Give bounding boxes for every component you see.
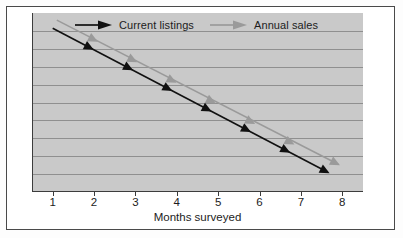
arrow-right-icon (319, 165, 332, 178)
x-tick-label: 5 (206, 196, 230, 208)
arrow-right-icon (83, 41, 96, 54)
plot-area-wrapper: Current listings Annual sales (32, 13, 363, 192)
legend-label-annual-sales: Annual sales (254, 19, 318, 31)
x-tick-label: 3 (123, 196, 147, 208)
arrow-right-icon (201, 103, 214, 116)
arrow-right-icon (279, 144, 292, 157)
legend-label-current-listings: Current listings (119, 19, 194, 31)
arrow-right-icon (209, 19, 249, 31)
x-tick-label: 6 (248, 196, 272, 208)
arrow-right-icon (161, 82, 174, 95)
x-tick-label: 4 (165, 196, 189, 208)
x-tick-label: 1 (41, 196, 65, 208)
chart-legend: Current listings Annual sales (32, 13, 363, 39)
legend-entry-annual-sales: Annual sales (209, 16, 318, 34)
arrow-right-icon (122, 62, 135, 75)
x-tick-label: 2 (82, 196, 106, 208)
x-tick-label: 8 (330, 196, 354, 208)
x-tick-label: 7 (289, 196, 313, 208)
chart-figure: Current listings Annual sales 12345678 M… (0, 0, 403, 238)
arrow-right-icon (240, 123, 253, 136)
series-line (57, 20, 338, 164)
x-axis-tick-labels: 12345678 (32, 196, 363, 212)
data-series-layer (32, 13, 363, 192)
arrow-right-icon (74, 19, 114, 31)
x-axis-title: Months surveyed (32, 211, 363, 223)
arrow-right-icon (329, 157, 342, 170)
legend-entry-current-listings: Current listings (74, 16, 194, 34)
